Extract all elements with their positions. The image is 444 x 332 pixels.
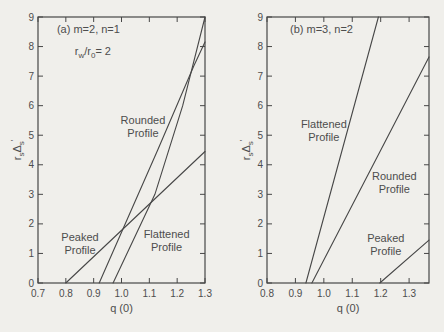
panel-b-yaxis-label: rsΔs′ xyxy=(238,139,255,160)
panel-a-ytick-label: 7 xyxy=(28,71,34,82)
panel-b-ytick-label: 0 xyxy=(257,278,263,289)
panel-a-title-line-1: (a) m=2, n=1 xyxy=(57,23,120,35)
panel-b-flattened-profile-label: FlattenedProfile xyxy=(301,118,347,143)
panel-b-ytick-label: 4 xyxy=(257,159,263,170)
panel-a-xtick-label: 1.3 xyxy=(198,288,212,299)
panel-a-xtick-label: 0.8 xyxy=(59,288,73,299)
panel-b-ytick-label: 2 xyxy=(257,218,263,229)
panel-b-peaked-profile-label: PeakedProfile xyxy=(367,232,404,257)
panel-a-ytick-label: 2 xyxy=(28,218,34,229)
panel-a-ytick-label: 3 xyxy=(28,189,34,200)
panel-b-ytick-label: 1 xyxy=(257,248,263,259)
panel-a-ytick-label: 6 xyxy=(28,100,34,111)
panel-a-xaxis-label: q (0) xyxy=(110,302,133,314)
panel-b-ytick-label: 3 xyxy=(257,189,263,200)
scanned-figure-page: 0.70.80.91.01.11.21.30123456789q (0)rsΔs… xyxy=(0,0,444,332)
panel-b-xtick-label: 1.3 xyxy=(402,288,416,299)
panel-b-frame xyxy=(267,17,429,283)
panel-b-xtick-label: 0.9 xyxy=(288,288,302,299)
panel-a-ytick-label: 8 xyxy=(28,41,34,52)
panel-a-flattened-profile-label: FlattenedProfile xyxy=(144,228,190,253)
panel-a-rounded-profile-label: RoundedProfile xyxy=(121,114,166,139)
panel-a-yaxis-label: rsΔs′ xyxy=(9,139,26,160)
panel-a-xtick-label: 0.9 xyxy=(87,288,101,299)
panel-b-ytick-label: 7 xyxy=(257,71,263,82)
panel-a-ytick-label: 5 xyxy=(28,130,34,141)
panel-b-title-line-1: (b) m=3, n=2 xyxy=(290,23,353,35)
panel-a-ytick-label: 4 xyxy=(28,159,34,170)
panel-b-xtick-label: 1.2 xyxy=(374,288,388,299)
panel-b-rounded-profile-label: RoundedProfile xyxy=(372,170,417,195)
panel-b-ytick-label: 8 xyxy=(257,41,263,52)
panel-b-ytick-label: 6 xyxy=(257,100,263,111)
panel-b-ytick-label: 9 xyxy=(257,12,263,23)
panel-b-xtick-label: 0.8 xyxy=(260,288,274,299)
panel-a-ytick-label: 0 xyxy=(28,278,34,289)
panel-b-xtick-label: 1.0 xyxy=(317,288,331,299)
panel-a-title-line-2: rw/r0= 2 xyxy=(75,45,111,60)
panel-a-xtick-label: 1.1 xyxy=(142,288,156,299)
panel-a-xtick-label: 1.0 xyxy=(115,288,129,299)
panel-a-xtick-label: 0.7 xyxy=(31,288,45,299)
dual-panel-line-chart: 0.70.80.91.01.11.21.30123456789q (0)rsΔs… xyxy=(0,0,444,332)
panel-b-ytick-label: 5 xyxy=(257,130,263,141)
panel-b-xtick-label: 1.1 xyxy=(345,288,359,299)
panel-a-ytick-label: 1 xyxy=(28,248,34,259)
panel-a-peaked-profile-label: PeakedProfile xyxy=(61,231,98,256)
panel-a-peaked-profile-line xyxy=(66,152,205,284)
panel-a-xtick-label: 1.2 xyxy=(170,288,184,299)
panel-b-xaxis-label: q (0) xyxy=(337,302,360,314)
panel-a-ytick-label: 9 xyxy=(28,12,34,23)
